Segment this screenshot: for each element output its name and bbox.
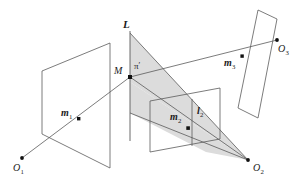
label-image-point-m2-subscript: 2 — [178, 117, 181, 124]
camera-center-o1-point — [20, 156, 24, 160]
point-M-marker — [128, 75, 132, 79]
label-camera-o3-subscript: 3 — [285, 49, 288, 56]
image-point-m1-marker — [77, 117, 80, 120]
label-image-point-m1-subscript: 1 — [69, 113, 72, 120]
figure-canvas: L M π′ m1 m2 m3 l2 O1 O2 O3 — [0, 0, 295, 189]
image-plane-3 — [238, 10, 277, 118]
label-camera-o2: O2 — [253, 163, 264, 173]
label-camera-o1: O1 — [13, 163, 24, 173]
label-image-point-m1-glyph: m — [61, 107, 69, 118]
image-point-m2-marker — [186, 126, 190, 130]
image-plane-1 — [42, 43, 110, 168]
label-point-M: M — [114, 66, 122, 76]
label-image-line-l2: l2 — [197, 106, 203, 116]
image-point-m3-marker — [240, 54, 243, 57]
label-image-point-m3-subscript: 3 — [232, 63, 235, 70]
label-image-line-l2-subscript: 2 — [200, 111, 203, 118]
label-image-point-m3-glyph: m — [224, 57, 232, 68]
label-image-point-m2-glyph: m — [170, 111, 178, 122]
label-line-L: L — [123, 19, 130, 30]
label-image-point-m3: m3 — [224, 58, 235, 68]
label-image-point-m1: m1 — [61, 108, 72, 118]
geometry-diagram-svg — [0, 0, 295, 189]
label-plane-pi-prime: π′ — [134, 62, 140, 71]
label-camera-o3: O3 — [278, 44, 289, 54]
ray-o1-to-M — [22, 77, 130, 158]
label-camera-o1-subscript: 1 — [20, 168, 23, 175]
label-camera-o2-subscript: 2 — [260, 168, 263, 175]
camera-center-o2-point — [246, 158, 250, 162]
label-plane-pi-prime-glyph: π — [134, 61, 139, 71]
label-plane-pi-prime-mark: ′ — [139, 61, 141, 70]
camera-center-o3-point — [275, 38, 279, 42]
label-image-point-m2: m2 — [170, 112, 181, 122]
